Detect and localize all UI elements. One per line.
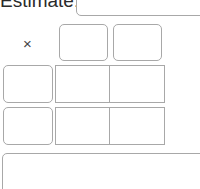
- top-factor-input-2[interactable]: [113, 24, 162, 61]
- multiply-icon: ×: [23, 36, 32, 52]
- grid-cell-r1c2[interactable]: [109, 65, 165, 103]
- grid-cell-r2c2[interactable]: [109, 107, 165, 145]
- estimate-input[interactable]: [76, 0, 200, 16]
- grid-cell-r1c1[interactable]: [55, 65, 110, 103]
- answer-input[interactable]: [2, 153, 200, 189]
- left-factor-input-2[interactable]: [3, 107, 53, 145]
- left-factor-input-1[interactable]: [3, 65, 53, 103]
- estimate-label: Estimate:: [0, 0, 79, 11]
- grid-cell-r2c1[interactable]: [55, 107, 110, 145]
- top-factor-input-1[interactable]: [59, 24, 108, 61]
